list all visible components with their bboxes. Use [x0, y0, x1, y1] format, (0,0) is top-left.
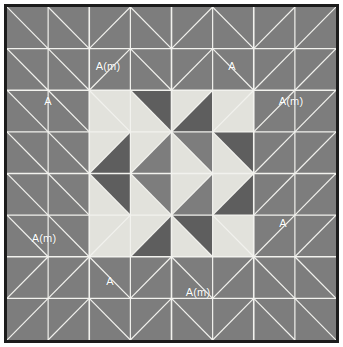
quilt-pattern-canvas: [7, 7, 336, 340]
quilt-block-frame: A(m)AAA(m)A(m)AAA(m): [4, 4, 339, 343]
quilt-block-figure: A(m)AAA(m)A(m)AAA(m): [0, 0, 343, 347]
quilt-seam-lines-group: [7, 7, 336, 340]
